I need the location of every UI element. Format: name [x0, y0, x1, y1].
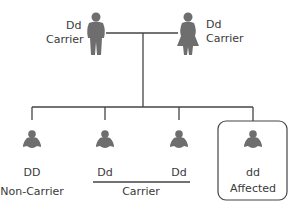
father-figure-icon: [87, 13, 105, 56]
child-figure-icon: [23, 130, 41, 148]
child-1-status: Non-Carrier: [0, 185, 64, 198]
child-4-status: Affected: [230, 182, 276, 195]
mother-figure-icon: [177, 13, 199, 56]
child-1-genotype: DD: [24, 166, 41, 179]
child-3-genotype: Dd: [171, 166, 186, 179]
child-figure-icon: [170, 130, 188, 148]
mother-status: Carrier: [206, 32, 244, 45]
child-4-genotype: dd: [246, 166, 260, 179]
carrier-group-label: Carrier: [122, 185, 160, 198]
child-figure-icon: [244, 130, 262, 148]
child-2-genotype: Dd: [97, 166, 112, 179]
father-status: Carrier: [46, 33, 84, 46]
mother-genotype: Dd: [206, 18, 221, 31]
child-figure-icon: [96, 130, 114, 148]
father-genotype: Dd: [66, 19, 81, 32]
